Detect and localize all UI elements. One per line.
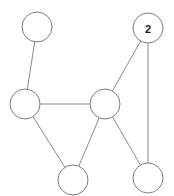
graph-node-n5[interactable] xyxy=(58,165,88,195)
node-circle-n3[interactable] xyxy=(10,89,40,119)
graph-node-n6[interactable] xyxy=(133,163,163,193)
graph-node-n2[interactable]: 2 xyxy=(133,13,163,43)
graph-edge-n4-n5 xyxy=(79,117,100,166)
graph-edge-n3-n5 xyxy=(33,116,66,167)
node-circle-n5[interactable] xyxy=(58,165,88,195)
graph-edge-n4-n2 xyxy=(112,41,141,92)
graph-node-n4[interactable] xyxy=(90,89,120,119)
graph-node-n1[interactable] xyxy=(22,12,52,42)
graph-diagram: 2 xyxy=(0,0,174,196)
graph-edge-n4-n6 xyxy=(112,117,140,166)
node-circle-n1[interactable] xyxy=(22,12,52,42)
graph-node-n3[interactable] xyxy=(10,89,40,119)
node-circle-n6[interactable] xyxy=(133,163,163,193)
node-circle-n4[interactable] xyxy=(90,89,120,119)
graph-edge-n1-n3 xyxy=(27,41,35,89)
node-circle-n2[interactable] xyxy=(133,13,163,43)
graph-canvas: 2 xyxy=(0,0,174,196)
edge-layer xyxy=(27,41,148,168)
